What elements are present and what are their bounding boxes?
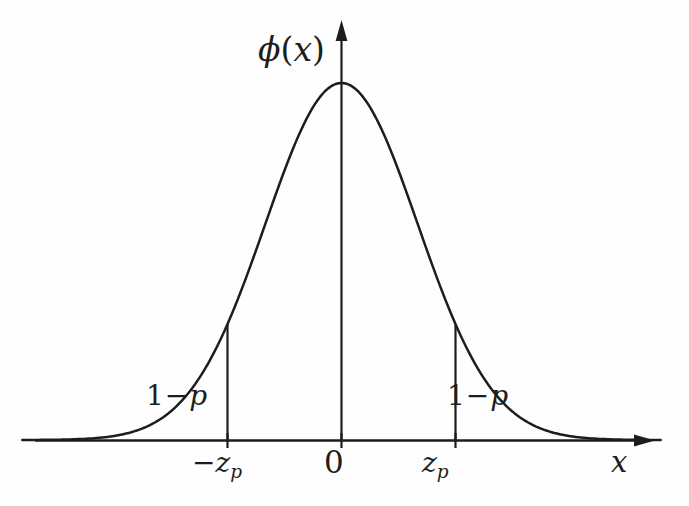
phi-symbol: ϕ bbox=[258, 30, 281, 69]
left-tail-lead: 1 bbox=[146, 379, 164, 412]
close-paren: ) bbox=[312, 30, 325, 69]
right-tail-lead: 1 bbox=[447, 379, 465, 412]
left-tail-operator: − bbox=[164, 379, 189, 412]
tick-label-negative-zp-base: −z bbox=[192, 446, 230, 479]
annotation-left-tail-area: 1−p bbox=[146, 382, 207, 410]
x-axis-label: x bbox=[611, 448, 627, 477]
left-tail-p: p bbox=[189, 379, 207, 412]
normal-distribution-figure: ϕ(x) x 0 −zp zp 1−p 1−p bbox=[0, 0, 689, 506]
tick-label-negative-zp: −zp bbox=[192, 449, 242, 481]
plot-canvas bbox=[0, 0, 689, 506]
y-axis-arrowhead bbox=[336, 20, 348, 41]
x-axis bbox=[36, 434, 655, 446]
right-tail-p: p bbox=[490, 379, 508, 412]
tick-label-positive-zp: zp bbox=[422, 449, 449, 481]
tick-label-positive-zp-base: z bbox=[422, 446, 437, 479]
annotation-right-tail-area: 1−p bbox=[447, 382, 508, 410]
tick-label-origin: 0 bbox=[324, 447, 344, 478]
right-tail-operator: − bbox=[465, 379, 490, 412]
y-axis-label: ϕ(x) bbox=[258, 33, 325, 66]
tick-label-negative-zp-subscript: p bbox=[230, 461, 242, 482]
open-paren: ( bbox=[281, 30, 294, 69]
tick-label-positive-zp-subscript: p bbox=[437, 461, 449, 482]
variable-x: x bbox=[293, 30, 312, 69]
